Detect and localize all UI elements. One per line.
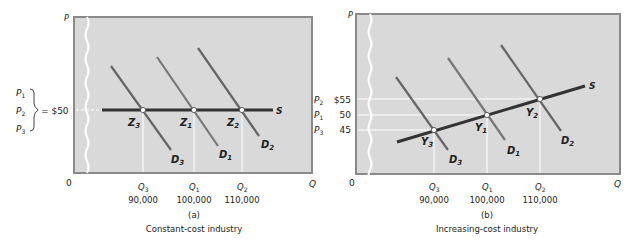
q-value-q2: 110,000 [224,195,259,205]
caption-letter-b: (b) [481,210,493,220]
diagram-canvas: P 0 Q P1 P2 P3 = $50 S Z3 Z1 Z2 D3 D1 D2… [0,0,634,251]
q-label-q3: Q3 [138,182,149,193]
q-label-q3: Q3 [429,182,440,193]
price-value-p1: 50 [340,110,352,120]
price-value-p3: 45 [340,125,351,135]
equilibrium-point-z2 [239,107,244,112]
equilibrium-point-z1 [191,107,196,112]
price-label-p2: P2 [16,106,25,117]
equilibrium-point-z3 [140,107,145,112]
equilibrium-point-y2 [537,96,542,101]
q-value-q1: 100,000 [176,195,211,205]
q-value-q3: 90,000 [419,195,449,205]
origin-label: 0 [349,178,355,188]
price-value: = $50 [41,106,69,116]
price-label-p1: P1 [314,110,323,121]
caption-letter-a: (a) [188,210,200,220]
q-value-q3: 90,000 [128,195,158,205]
price-label-p3: P3 [16,124,25,135]
price-label-p1: P1 [16,88,25,99]
caption-a: Constant-cost industry [146,224,242,234]
q-label-q1: Q1 [189,182,200,193]
caption-b: Increasing-cost industry [436,224,538,234]
q-label-q1: Q1 [482,182,493,193]
price-label-p2: P2 [314,95,323,106]
panel-a-plot-area [74,17,312,173]
axis-label-q: Q [614,179,621,189]
q-label-q2: Q2 [535,182,546,193]
panel-b-plot-area [356,14,620,174]
q-label-q2: Q2 [237,182,248,193]
equilibrium-point-y1 [484,112,489,117]
q-value-q2: 110,000 [522,195,557,205]
q-value-q1: 100,000 [469,195,504,205]
price-label-p3: P3 [314,125,323,136]
axis-label-q: Q [309,179,316,189]
axis-label-p: P [64,14,69,23]
origin-label: 0 [66,178,72,188]
price-value-p2: $55 [334,95,351,105]
panel-b [356,14,620,182]
equilibrium-point-y3 [431,127,436,132]
axis-label-p: P [348,11,353,20]
price-brace [30,89,38,131]
supply-label: S [589,81,595,91]
supply-label: S [276,106,282,116]
